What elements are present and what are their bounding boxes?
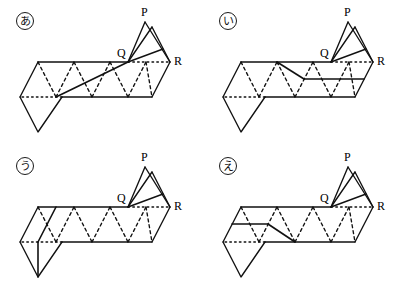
fold-1 bbox=[38, 62, 56, 97]
strip-left-upper-edge bbox=[223, 62, 241, 97]
variant-long-diagonal bbox=[56, 62, 128, 97]
vertex-label-r: R bbox=[377, 200, 385, 212]
left-hanging-triangle bbox=[223, 242, 265, 277]
fold-4 bbox=[92, 207, 110, 242]
panel-e: え bbox=[203, 145, 406, 290]
panel-a: あ bbox=[0, 0, 203, 145]
vertex-label-r: R bbox=[377, 55, 385, 67]
fold-4 bbox=[92, 62, 110, 97]
vertex-label-q: Q bbox=[320, 47, 329, 59]
panel-a-drawing bbox=[0, 0, 203, 145]
fold-7 bbox=[146, 207, 152, 242]
strip-right-lower-edge bbox=[152, 207, 170, 242]
strip-right-lower-edge bbox=[355, 207, 373, 242]
panel-i-drawing bbox=[203, 0, 406, 145]
edge-pr bbox=[145, 167, 170, 207]
left-hanging-triangle bbox=[223, 97, 265, 132]
fold-6 bbox=[331, 207, 349, 242]
edge-pr bbox=[348, 167, 373, 207]
fold-7 bbox=[349, 207, 355, 242]
vertex-label-q: Q bbox=[117, 47, 126, 59]
vertex-label-p: P bbox=[141, 151, 148, 163]
vertex-label-r: R bbox=[174, 55, 182, 67]
strip-left-upper-edge bbox=[20, 207, 38, 242]
fold-6 bbox=[128, 62, 146, 97]
vertex-label-p: P bbox=[141, 6, 148, 18]
figure-board: あ bbox=[0, 0, 406, 290]
fold-5 bbox=[110, 207, 128, 242]
edge-pr bbox=[145, 22, 170, 62]
strip-left-upper-edge bbox=[20, 62, 38, 97]
vertex-label-r: R bbox=[174, 200, 182, 212]
fold-5 bbox=[313, 207, 331, 242]
panel-i: い bbox=[203, 0, 406, 145]
left-hanging-triangle bbox=[20, 242, 62, 277]
fold-6 bbox=[128, 207, 146, 242]
fold-3 bbox=[74, 207, 92, 242]
vertex-label-p: P bbox=[344, 151, 351, 163]
variant-descending-diagonal bbox=[268, 224, 295, 242]
strip-right-lower-edge bbox=[152, 62, 170, 97]
vertex-label-p: P bbox=[344, 6, 351, 18]
fold-7 bbox=[146, 62, 152, 97]
fold-4 bbox=[295, 207, 313, 242]
fold-1 bbox=[241, 62, 259, 97]
fold-2 bbox=[56, 207, 74, 242]
vertex-label-q: Q bbox=[117, 192, 126, 204]
fold-3 bbox=[74, 62, 92, 97]
panel-u-drawing bbox=[0, 145, 203, 290]
edge-pr bbox=[348, 22, 373, 62]
vertex-label-q: Q bbox=[320, 192, 329, 204]
left-hanging-triangle bbox=[20, 97, 62, 132]
panel-u: う bbox=[0, 145, 203, 290]
fold-2 bbox=[259, 62, 277, 97]
panel-e-drawing bbox=[203, 145, 406, 290]
